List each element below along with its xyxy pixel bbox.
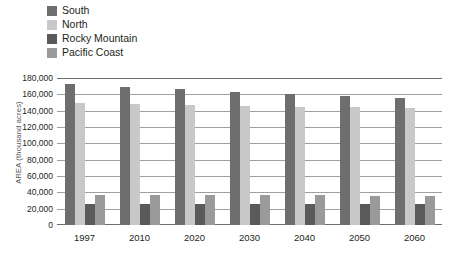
bar-north bbox=[130, 104, 140, 225]
bar-group: 1997 bbox=[57, 78, 112, 225]
bar-south bbox=[175, 89, 185, 225]
x-axis-tick-label: 2060 bbox=[387, 232, 442, 243]
y-axis-ticks: 020,00040,00060,00080,000100,000120,0001… bbox=[0, 66, 53, 259]
legend-label-south: South bbox=[62, 4, 89, 17]
y-axis-tick-label: 40,000 bbox=[0, 187, 53, 197]
bar-rocky-mountain bbox=[195, 204, 205, 225]
legend-swatch-south bbox=[47, 6, 57, 16]
bar-pacific-coast bbox=[95, 195, 105, 225]
y-axis-tick-label: 0 bbox=[0, 220, 53, 230]
legend-label-rocky-mountain: Rocky Mountain bbox=[62, 32, 137, 45]
x-axis-tick-label: 2040 bbox=[277, 232, 332, 243]
bar-pacific-coast bbox=[370, 196, 380, 225]
bar-rocky-mountain bbox=[415, 204, 425, 225]
bar-pacific-coast bbox=[425, 196, 435, 225]
bar-rocky-mountain bbox=[140, 204, 150, 225]
bar-south bbox=[285, 94, 295, 225]
plot-area: 1997201020202030204020502060 bbox=[57, 78, 442, 225]
y-axis-tick-label: 180,000 bbox=[0, 73, 53, 83]
bar-group: 2020 bbox=[167, 78, 222, 225]
bar-north bbox=[295, 107, 305, 225]
bar-north bbox=[405, 108, 415, 225]
bar-north bbox=[185, 105, 195, 225]
bar-group: 2010 bbox=[112, 78, 167, 225]
bar-group: 2050 bbox=[332, 78, 387, 225]
y-axis-tick-label: 60,000 bbox=[0, 171, 53, 181]
legend-item-north: North bbox=[47, 18, 137, 31]
legend-item-rocky-mountain: Rocky Mountain bbox=[47, 32, 137, 45]
bar-south bbox=[340, 96, 350, 225]
bar-rocky-mountain bbox=[360, 204, 370, 225]
x-axis-tick-label: 2050 bbox=[332, 232, 387, 243]
legend-item-pacific-coast: Pacific Coast bbox=[47, 46, 137, 59]
bar-group: 2030 bbox=[222, 78, 277, 225]
bar-rocky-mountain bbox=[250, 204, 260, 225]
bar-rocky-mountain bbox=[85, 204, 95, 225]
x-axis-tick-label: 2010 bbox=[112, 232, 167, 243]
bar-pacific-coast bbox=[315, 195, 325, 225]
x-axis-tick-label: 2030 bbox=[222, 232, 277, 243]
y-axis-tick-label: 100,000 bbox=[0, 138, 53, 148]
y-axis-tick-label: 160,000 bbox=[0, 89, 53, 99]
y-axis-tick-label: 20,000 bbox=[0, 204, 53, 214]
x-axis-tick-label: 1997 bbox=[57, 232, 112, 243]
bar-chart: AREA (thousand acres) 020,00040,00060,00… bbox=[0, 66, 455, 259]
legend-swatch-north bbox=[47, 20, 57, 30]
bar-south bbox=[120, 87, 130, 225]
bar-groups: 1997201020202030204020502060 bbox=[57, 78, 442, 225]
legend-label-north: North bbox=[62, 18, 88, 31]
bar-group: 2060 bbox=[387, 78, 442, 225]
y-axis-tick-label: 120,000 bbox=[0, 122, 53, 132]
bar-rocky-mountain bbox=[305, 204, 315, 225]
bar-south bbox=[65, 84, 75, 225]
legend-swatch-rocky-mountain bbox=[47, 34, 57, 44]
chart-legend: South North Rocky Mountain Pacific Coast bbox=[47, 4, 137, 59]
bar-pacific-coast bbox=[260, 195, 270, 225]
legend-label-pacific-coast: Pacific Coast bbox=[62, 46, 123, 59]
bar-south bbox=[395, 98, 405, 225]
bar-group: 2040 bbox=[277, 78, 332, 225]
bar-north bbox=[350, 107, 360, 225]
bar-north bbox=[75, 103, 85, 226]
legend-swatch-pacific-coast bbox=[47, 48, 57, 58]
bar-south bbox=[230, 92, 240, 225]
bar-north bbox=[240, 106, 250, 225]
legend-item-south: South bbox=[47, 4, 137, 17]
bar-pacific-coast bbox=[205, 195, 215, 225]
x-axis-tick-label: 2020 bbox=[167, 232, 222, 243]
bar-pacific-coast bbox=[150, 195, 160, 225]
y-axis-tick-label: 140,000 bbox=[0, 106, 53, 116]
y-axis-tick-label: 80,000 bbox=[0, 155, 53, 165]
